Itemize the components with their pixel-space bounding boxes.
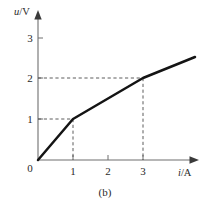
y-axis-title-unit: /V <box>19 6 30 17</box>
x-tick-label-2: 2 <box>105 165 111 177</box>
y-tick-label-3: 3 <box>27 32 33 44</box>
x-axis-arrowhead <box>190 156 200 163</box>
origin-label: 0 <box>27 162 33 174</box>
y-axis-title: u/V <box>14 6 30 17</box>
u-i-characteristic-chart: 0 1 2 3 1 2 3 u/V i/A (b) <box>0 0 211 204</box>
x-axis-title-unit: /A <box>181 167 192 178</box>
y-tick-label-1: 1 <box>27 113 33 125</box>
figure-caption: (b) <box>99 186 112 199</box>
x-axis-title: i/A <box>178 167 192 178</box>
y-tick-label-2: 2 <box>27 72 33 84</box>
curve-u-i <box>38 57 195 160</box>
y-axis-arrowhead <box>34 10 41 20</box>
x-tick-label-1: 1 <box>70 165 76 177</box>
x-tick-label-3: 3 <box>140 165 146 177</box>
figure-container: 0 1 2 3 1 2 3 u/V i/A (b) <box>0 0 211 204</box>
